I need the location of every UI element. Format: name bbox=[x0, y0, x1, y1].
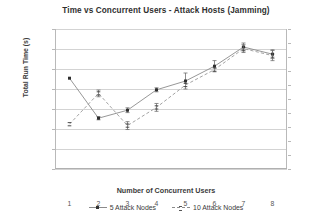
series-line-1 bbox=[70, 47, 273, 118]
data-point-marker bbox=[126, 109, 129, 112]
x-axis-label: Number of Concurrent Users bbox=[0, 186, 332, 195]
tick-mark bbox=[288, 29, 291, 30]
tick-mark bbox=[52, 169, 55, 170]
legend-label-10-attack-nodes: 10 Attack Nodes bbox=[193, 204, 243, 211]
plot-area: 25502500245024002350230022502200 3550350… bbox=[55, 29, 287, 169]
chart-container: Time vs Concurrent Users - Attack Hosts … bbox=[0, 0, 332, 224]
tick-mark bbox=[288, 113, 291, 114]
data-point-marker bbox=[155, 88, 158, 91]
series-line-2 bbox=[70, 49, 273, 126]
tick-mark bbox=[288, 127, 291, 128]
error-bar bbox=[155, 103, 159, 111]
tick-mark bbox=[288, 43, 291, 44]
data-point-marker bbox=[68, 77, 71, 80]
tick-mark bbox=[288, 169, 291, 170]
series-layer bbox=[55, 29, 287, 169]
data-point-marker bbox=[213, 65, 216, 68]
data-point-marker bbox=[97, 117, 100, 120]
legend-line-dashed-icon bbox=[172, 204, 190, 211]
tick-mark bbox=[288, 57, 291, 58]
gridline bbox=[55, 169, 287, 170]
tick-mark bbox=[288, 141, 291, 142]
chart-title: Time vs Concurrent Users - Attack Hosts … bbox=[0, 6, 332, 15]
y-axis-label: Total Run Time (s) bbox=[22, 25, 29, 111]
tick-mark bbox=[288, 99, 291, 100]
tick-mark bbox=[288, 71, 291, 72]
tick-mark bbox=[288, 155, 291, 156]
chart-legend: 5 Attack Nodes 10 Attack Nodes bbox=[0, 204, 332, 211]
error-bar bbox=[97, 90, 101, 97]
tick-mark bbox=[288, 85, 291, 86]
legend-label-5-attack-nodes: 5 Attack Nodes bbox=[110, 204, 156, 211]
legend-line-solid-icon bbox=[89, 204, 107, 211]
data-point-marker bbox=[184, 80, 187, 83]
legend-item-10-attack-nodes[interactable]: 10 Attack Nodes bbox=[172, 204, 243, 211]
error-bar bbox=[126, 122, 130, 130]
legend-item-5-attack-nodes[interactable]: 5 Attack Nodes bbox=[89, 204, 156, 211]
